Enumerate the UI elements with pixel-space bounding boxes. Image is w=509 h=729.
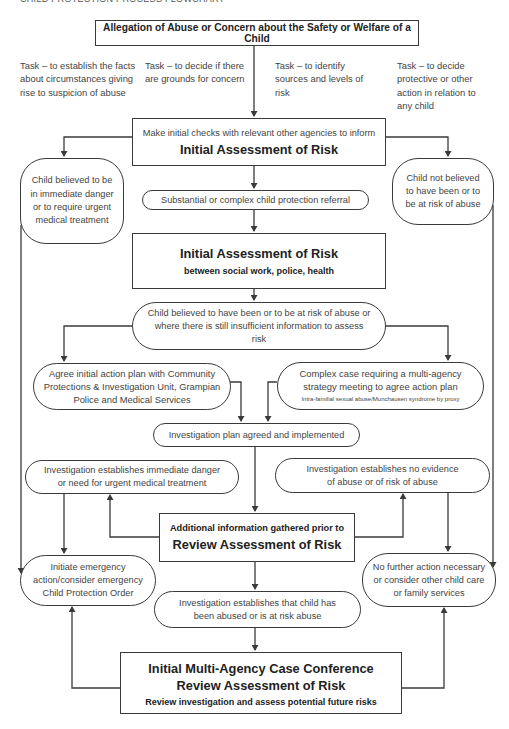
task-identify-risk: Task – to identify sources and levels of… — [275, 59, 365, 99]
complex-case-label: Complex case requiring a multi-agency st… — [282, 367, 479, 393]
inv-no-evidence-node: Investigation establishes no evidence of… — [275, 458, 490, 493]
additional-info-line1: Additional information gathered prior to — [170, 523, 344, 533]
allegation-label: Allegation of Abuse or Concern about the… — [96, 22, 418, 44]
complex-case-note: Intra-familial sexual abuse/Munchausen s… — [301, 393, 459, 406]
case-conference-subtitle: Review investigation and assess potentia… — [145, 697, 377, 707]
task-decide-action: Task – to decide protective or other act… — [397, 59, 487, 113]
child-immediate-danger-node: Child believed to be in immediate danger… — [20, 158, 124, 244]
emergency-action-node: Initiate emergency action/consider emerg… — [20, 555, 156, 606]
initial-assessment-subtitle: between social work, police, health — [184, 266, 334, 276]
substantial-referral-label: Substantial or complex child protection … — [161, 194, 350, 207]
initial-assessment-title: Initial Assessment of Risk — [180, 246, 338, 261]
case-conference-box: Initial Multi-Agency Case Conference Rev… — [120, 652, 402, 714]
inv-abused-label: Investigation establishes that child has… — [179, 597, 336, 623]
emergency-action-label: Initiate emergency action/consider emerg… — [27, 561, 149, 600]
child-immediate-danger-label: Child believed to be in immediate danger… — [27, 174, 117, 227]
inv-immediate-danger-node: Investigation establishes immediate dang… — [25, 460, 239, 494]
additional-info-title: Review Assessment of Risk — [173, 537, 342, 552]
agree-action-plan-node: Agree initial action plan with Community… — [33, 363, 231, 410]
child-at-risk-label: Child believed to have been or to be at … — [147, 307, 371, 346]
agree-action-plan-label: Agree initial action plan with Community… — [38, 367, 226, 406]
initial-checks-line1: Make initial checks with relevant other … — [143, 128, 375, 138]
inv-immediate-danger-label: Investigation establishes immediate dang… — [40, 464, 224, 490]
child-at-risk-node: Child believed to have been or to be at … — [132, 302, 386, 350]
substantial-referral-node: Substantial or complex child protection … — [142, 190, 369, 210]
inv-no-evidence-label: Investigation establishes no evidence of… — [304, 463, 461, 489]
investigation-plan-label: Investigation plan agreed and implemente… — [169, 429, 345, 442]
inv-abused-node: Investigation establishes that child has… — [154, 591, 361, 628]
investigation-plan-node: Investigation plan agreed and implemente… — [153, 423, 360, 447]
no-further-action-label: No further action necessary or consider … — [369, 561, 489, 600]
initial-checks-box: Make initial checks with relevant other … — [132, 118, 386, 166]
child-not-at-risk-node: Child not believed to have been or to be… — [392, 158, 494, 225]
allegation-box: Allegation of Abuse or Concern about the… — [95, 20, 419, 46]
complex-case-node: Complex case requiring a multi-agency st… — [277, 362, 484, 410]
no-further-action-node: No further action necessary or consider … — [362, 553, 496, 607]
child-not-at-risk-label: Child not believed to have been or to be… — [403, 172, 483, 212]
initial-assessment-box: Initial Assessment of Risk between socia… — [132, 233, 386, 289]
additional-info-box: Additional information gathered prior to… — [159, 513, 355, 562]
task-establish-facts: Task – to establish the facts about circ… — [20, 59, 138, 99]
initial-checks-title: Initial Assessment of Risk — [180, 142, 338, 157]
task-decide-grounds: Task – to decide if there are grounds fo… — [145, 59, 250, 86]
case-conference-title: Initial Multi-Agency Case Conference Rev… — [129, 660, 393, 694]
